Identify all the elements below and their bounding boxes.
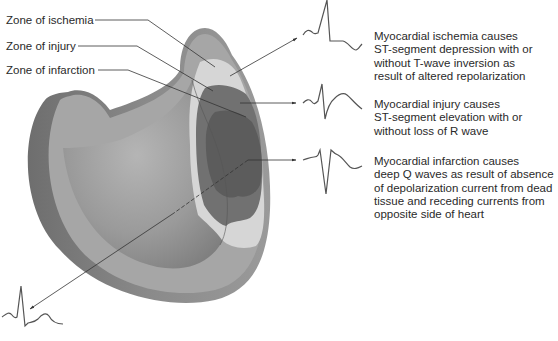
injury-description: Myocardial injury causes ST-segment elev… <box>374 98 558 138</box>
ecg-injury-trace <box>303 84 362 119</box>
infarction-description-line: Myocardial infarction causes <box>374 155 558 168</box>
injury-description-line: without loss of R wave <box>374 125 558 138</box>
zone-infarction-label: Zone of infarction <box>6 64 95 77</box>
infarction-description-line: opposite side of heart <box>374 208 558 221</box>
infarction-description-line: tissue and receding currents from <box>374 195 558 208</box>
zone-injury-label: Zone of injury <box>6 40 76 53</box>
injury-description-line: Myocardial injury causes <box>374 98 558 111</box>
ecg-ischemia-trace <box>303 0 362 50</box>
ecg-infarction-trace <box>303 150 362 194</box>
ischemia-description-line: result of altered repolarization <box>374 70 558 83</box>
infarction-description-line: of depolarization current from dead <box>374 182 558 195</box>
ischemia-description-line: without T-wave inversion as <box>374 57 558 70</box>
injury-description-line: ST-segment elevation with or <box>374 111 558 124</box>
ischemia-description: Myocardial ischemia causes ST-segment de… <box>374 30 558 83</box>
infarction-description-line: deep Q waves as result of absence <box>374 168 558 181</box>
zone-ischemia-label: Zone of ischemia <box>6 14 94 27</box>
infarction-description: Myocardial infarction causes deep Q wave… <box>374 155 558 221</box>
ischemia-description-line: Myocardial ischemia causes <box>374 30 558 43</box>
ecg-opposite-trace <box>2 286 63 326</box>
ischemia-description-line: ST-segment depression with or <box>374 43 558 56</box>
